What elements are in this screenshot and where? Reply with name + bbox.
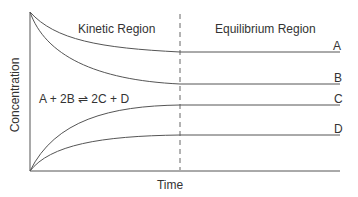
- series-label-a: A: [333, 39, 341, 53]
- x-axis-label: Time: [157, 178, 184, 192]
- series-label-b: B: [334, 71, 342, 85]
- curve-c: [30, 105, 340, 171]
- concentration-chart: Kinetic Region Equilibrium Region A + 2B…: [0, 0, 358, 197]
- series-label-c: C: [334, 92, 343, 106]
- series-label-d: D: [334, 122, 343, 136]
- reaction-equation: A + 2B ⇌ 2C + D: [39, 92, 129, 106]
- curve-d: [30, 135, 340, 171]
- equilibrium-region-label: Equilibrium Region: [215, 22, 316, 36]
- y-axis-label: Concentration: [8, 58, 22, 133]
- kinetic-region-label: Kinetic Region: [78, 22, 155, 36]
